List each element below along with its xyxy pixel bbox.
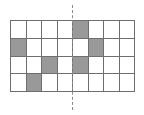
grid-cell [27,57,43,75]
grid-cell [42,39,58,57]
grid-cell [104,39,120,57]
grid-cell [120,39,136,57]
grid-cell-shaded [73,21,89,39]
grid-cell [27,21,43,39]
symmetry-line-dashed [72,5,73,110]
grid-cell [58,21,74,39]
grid-cell-shaded [11,39,27,57]
grid-cell [11,21,27,39]
grid-cell [120,74,136,92]
grid-cell-shaded [27,74,43,92]
grid-cell [73,74,89,92]
grid-cell [58,74,74,92]
grid-cell [73,39,89,57]
grid-cell [89,57,105,75]
grid-cell [120,57,136,75]
symmetry-grid-figure [0,0,144,115]
grid-cell [42,74,58,92]
grid-cell [58,57,74,75]
grid-cell-shaded [89,39,105,57]
grid-cell [89,21,105,39]
grid-cell [27,39,43,57]
grid-cell [42,21,58,39]
grid-cell [104,57,120,75]
grid-cell [120,21,136,39]
grid-cell [11,57,27,75]
grid-cell [104,21,120,39]
grid-cell [104,74,120,92]
grid-cell [58,39,74,57]
grid-cell-shaded [42,57,58,75]
grid-cell [89,74,105,92]
grid-cell-shaded [73,57,89,75]
grid-cell [11,74,27,92]
